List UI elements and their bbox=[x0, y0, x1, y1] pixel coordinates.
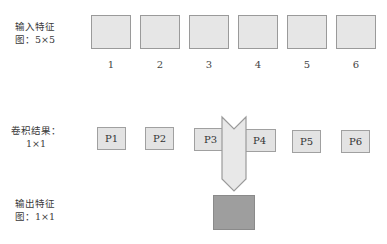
conv-label-line1: 卷积结果： bbox=[11, 124, 61, 137]
input-map-3 bbox=[189, 15, 229, 49]
conv-label-line2: 1×1 bbox=[11, 137, 61, 150]
input-map-2 bbox=[140, 15, 180, 49]
conv-result-p5: P5 bbox=[292, 130, 321, 153]
output-feature-map-label: 输出特征 图：1×1 bbox=[15, 197, 55, 223]
output-label-line2: 图：1×1 bbox=[15, 210, 55, 223]
input-map-number: 5 bbox=[287, 59, 327, 70]
conv-result-label: 卷积结果： 1×1 bbox=[11, 124, 61, 150]
input-map-number: 3 bbox=[189, 59, 229, 70]
input-feature-map-label: 输入特征 图：5×5 bbox=[15, 20, 55, 46]
input-map-5 bbox=[287, 15, 327, 49]
conv-result-p2: P2 bbox=[145, 127, 174, 150]
conv-result-p1: P1 bbox=[97, 127, 126, 150]
input-map-number: 6 bbox=[336, 59, 376, 70]
input-label-line1: 输入特征 bbox=[15, 20, 55, 33]
conv-result-p6: P6 bbox=[341, 130, 370, 153]
input-map-number: 4 bbox=[238, 59, 278, 70]
input-map-4 bbox=[238, 15, 278, 49]
input-map-number: 2 bbox=[140, 59, 180, 70]
output-label-line1: 输出特征 bbox=[15, 197, 55, 210]
input-map-1 bbox=[91, 15, 131, 49]
input-label-line2: 图：5×5 bbox=[15, 33, 55, 46]
input-map-6 bbox=[336, 15, 376, 49]
input-map-number: 1 bbox=[91, 59, 131, 70]
down-arrow-icon bbox=[220, 115, 250, 195]
output-feature-map bbox=[213, 195, 255, 230]
